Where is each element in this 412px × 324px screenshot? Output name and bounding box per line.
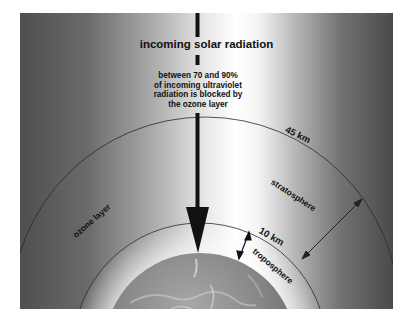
note-line: radiation is blocked by [20,90,376,100]
ozone-absorption-note: between 70 and 90% of incoming ultraviol… [20,71,376,109]
diagram-title: incoming solar radiation [20,38,393,50]
atmosphere-diagram: incoming solar radiation between 70 and … [20,13,393,309]
note-line: of incoming ultraviolet [20,81,376,91]
note-line: between 70 and 90% [20,71,376,81]
note-line: the ozone layer [20,100,376,110]
diagram-graphics [20,13,393,309]
